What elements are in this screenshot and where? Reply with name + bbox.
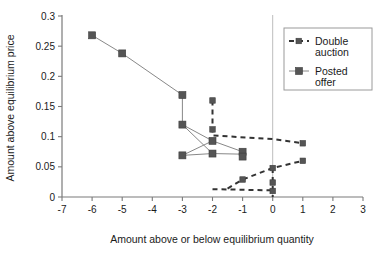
data-point-marker xyxy=(209,137,216,144)
y-axis-title: Amount above equilibrium price xyxy=(4,34,16,181)
x-axis-title: Amount above or below equilibrium quanti… xyxy=(110,233,314,245)
legend-label-line2: offer xyxy=(315,76,336,88)
x-tick-label: -3 xyxy=(178,204,187,215)
data-point-marker xyxy=(119,50,126,57)
data-point-marker xyxy=(89,32,96,39)
x-tick-label: -6 xyxy=(88,204,97,215)
data-point-marker xyxy=(239,153,246,160)
data-point-marker xyxy=(210,127,216,133)
y-tick-label: 0.05 xyxy=(36,161,56,172)
y-tick-label: 0.3 xyxy=(41,11,55,22)
y-tick-label: 0.15 xyxy=(36,101,56,112)
x-tick-label: -7 xyxy=(58,204,67,215)
data-point-marker xyxy=(270,165,276,171)
x-tick-label: 2 xyxy=(330,204,336,215)
y-tick-label: 0.25 xyxy=(36,41,56,52)
data-point-marker xyxy=(300,141,306,147)
chart-container: 00.050.10.150.20.250.3 -7-6-5-4-3-2-1012… xyxy=(0,0,377,256)
data-point-marker xyxy=(179,92,186,99)
data-point-marker xyxy=(179,121,186,128)
scatter-line-chart: 00.050.10.150.20.250.3 -7-6-5-4-3-2-1012… xyxy=(0,0,377,256)
y-tick-label: 0.1 xyxy=(41,131,55,142)
legend-marker xyxy=(296,68,303,75)
x-tick-label: 3 xyxy=(360,204,366,215)
legend-label-line1: Posted xyxy=(315,65,348,77)
data-point-marker xyxy=(270,188,276,194)
legend-label-line2: auction xyxy=(315,46,349,58)
x-tick-label: -1 xyxy=(238,204,247,215)
x-tick-label: 0 xyxy=(270,204,276,215)
data-point-marker xyxy=(270,180,276,186)
data-point-marker xyxy=(209,150,216,157)
data-point-marker xyxy=(300,158,306,164)
x-tick-label: -5 xyxy=(118,204,127,215)
y-tick-label: 0 xyxy=(49,192,55,203)
chart-legend: DoubleauctionPostedoffer xyxy=(284,28,372,90)
legend-marker xyxy=(296,38,302,44)
legend-label-line1: Double xyxy=(315,35,348,47)
x-tick-label: 1 xyxy=(300,204,306,215)
data-point-marker xyxy=(240,177,246,183)
data-point-marker xyxy=(179,152,186,159)
x-tick-label: -4 xyxy=(148,204,157,215)
x-tick-label: -2 xyxy=(208,204,217,215)
data-point-marker xyxy=(210,98,216,104)
y-tick-label: 0.2 xyxy=(41,71,55,82)
